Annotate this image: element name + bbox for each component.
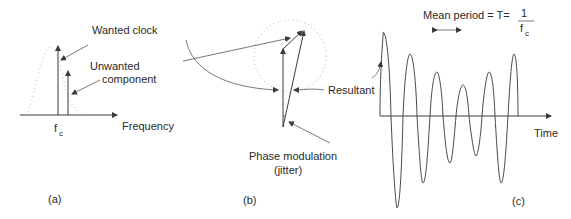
mean-period-label: Mean period = T= [423, 9, 510, 21]
panel-a-caption: (a) [48, 193, 61, 205]
panel-a: Wanted clock Unwanted component f c Freq… [20, 24, 174, 205]
jittered-waveform [380, 32, 518, 208]
wanted-clock-label: Wanted clock [92, 24, 158, 36]
unwanted-pointer-arrow [72, 80, 100, 94]
panel-b-caption: (b) [243, 194, 256, 206]
wanted-pointer-arrow [61, 45, 88, 60]
unwanted-phasor-pointer [183, 38, 290, 61]
phase-modulation-pointer [289, 122, 330, 143]
spectrum-envelope-dotted [28, 47, 80, 113]
frequency-axis-label: Frequency [122, 120, 174, 132]
time-axis-label: Time [534, 127, 558, 139]
panel-c: Mean period = T= 1 f c Time (c) [372, 7, 558, 208]
fc-label-subscript: c [59, 129, 63, 138]
panel-c-caption: (c) [512, 195, 525, 207]
phase-modulation-label: Phase modulation [249, 150, 337, 162]
phasor-locus-dotted-circle [254, 20, 326, 92]
unwanted-phasor [283, 31, 302, 49]
fraction-denominator-subscript: c [525, 29, 529, 38]
jitter-label: (jitter) [274, 164, 302, 176]
unwanted-label-line2: component [102, 73, 156, 85]
fc-label: f [54, 122, 58, 134]
jitter-diagram: Wanted clock Unwanted component f c Freq… [0, 0, 571, 219]
resultant-label: Resultant [328, 84, 374, 96]
arc-pointer-arrow [186, 40, 278, 90]
fraction-denominator: f [520, 22, 524, 34]
fraction-numerator: 1 [521, 7, 527, 19]
resultant-to-waveform-arrow [372, 62, 381, 78]
resultant-pointer-arrow [294, 89, 324, 90]
unwanted-label-line1: Unwanted [90, 60, 140, 72]
panel-b: Resultant Phase modulation (jitter) (b) [183, 20, 374, 206]
